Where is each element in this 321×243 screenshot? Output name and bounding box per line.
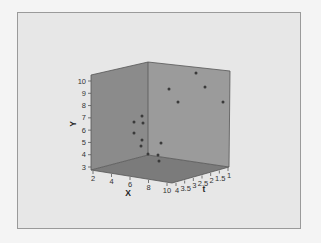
data-point [168,88,171,91]
x-tick-label: 4 [109,177,113,186]
t-tick-label: 1 [227,171,231,180]
t-axis-label: t [203,184,206,194]
y-tick-label: 3 [82,163,86,172]
y-axis-ticks: 345678910 [78,77,91,172]
y-axis-label: Y [68,121,78,127]
data-point [142,122,145,125]
data-point [195,72,198,75]
x-axis-label: X [125,188,131,198]
t-tick-label: 1.5 [215,174,225,183]
data-point [147,153,150,156]
left-wall [91,62,148,170]
y-tick-label: 5 [82,138,86,147]
data-point [141,139,144,142]
x-tick-label: 10 [163,186,171,195]
x-tick-label: 2 [91,174,95,183]
y-tick-label: 4 [82,150,86,159]
t-tick-label: 2 [210,176,214,185]
y-tick-label: 8 [82,101,86,110]
x-tick-label: 8 [146,183,150,192]
data-point [158,160,161,163]
t-tick-label: 3 [192,181,196,190]
data-point [140,145,143,148]
data-point [177,101,180,104]
y-tick-label: 10 [78,77,86,86]
t-tick-label: 3.5 [180,184,190,193]
t-tick-label: 4 [175,186,179,195]
data-point [222,101,225,104]
right-wall [148,62,230,167]
data-point [157,154,160,157]
y-tick-label: 9 [82,89,86,98]
data-point [133,121,136,124]
scatter-3d-chart: 345678910 246810 43.532.521.51 Y X t [0,0,321,243]
y-tick-label: 7 [82,113,86,122]
data-point [204,86,207,89]
data-point [141,115,144,118]
data-point [160,142,163,145]
data-point [133,132,136,135]
y-tick-label: 6 [82,126,86,135]
